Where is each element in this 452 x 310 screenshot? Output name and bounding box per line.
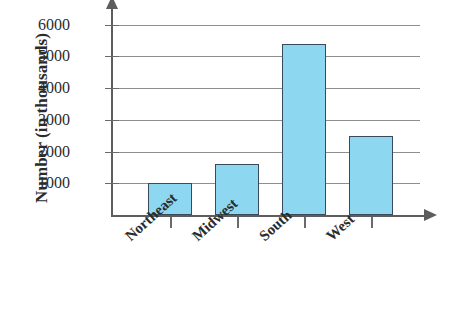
- x-tick-mark: [237, 217, 239, 228]
- y-tick-label: 3000: [18, 112, 70, 128]
- y-tick-label: 6000: [18, 17, 70, 33]
- x-tick-mark: [170, 217, 172, 228]
- gridline: [112, 56, 420, 57]
- x-axis-right-arrow-icon: [424, 209, 437, 221]
- gridline: [112, 25, 420, 26]
- x-tick-mark: [371, 217, 373, 228]
- gridline: [112, 88, 420, 89]
- y-tick-label: 1000: [18, 175, 70, 191]
- y-tick-label: 5000: [18, 48, 70, 64]
- x-tick-mark: [304, 217, 306, 228]
- y-axis-up-arrow-icon: [106, 0, 118, 9]
- y-tick-mark: [105, 25, 119, 26]
- y-tick-mark: [105, 56, 119, 57]
- gridline: [112, 120, 420, 121]
- y-tick-mark: [105, 152, 119, 153]
- y-tick-mark: [105, 88, 119, 89]
- y-tick-mark: [105, 120, 119, 121]
- y-tick-label: 2000: [18, 144, 70, 160]
- y-tick-label: 4000: [18, 80, 70, 96]
- y-tick-mark: [105, 183, 119, 184]
- bar-chart: Number (in thousands) 100020003000400050…: [0, 0, 452, 310]
